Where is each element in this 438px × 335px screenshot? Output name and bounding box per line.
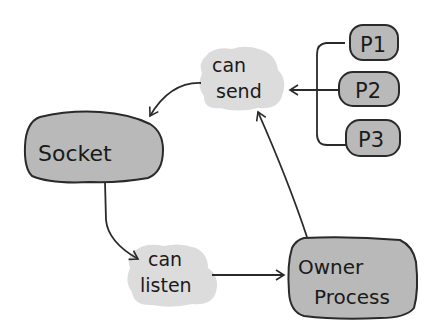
can-listen-line1: can [148,248,182,270]
owner-process-line1: Owner [298,255,364,279]
node-p1: P1 [350,25,398,60]
can-send-line2: send [216,80,262,102]
edge-owner-to-can-send [258,112,307,237]
socket-label: Socket [38,141,112,166]
edge-can-send-to-socket [150,83,201,116]
p2-label: P2 [355,79,381,103]
can-listen-line2: listen [140,274,192,296]
node-can-send: can send [199,47,284,111]
can-send-line1: can [212,54,246,76]
p1-label: P1 [360,33,386,57]
diagram-canvas: can send can listen Socket Owner Process… [0,0,438,335]
owner-process-line2: Process [314,285,390,309]
node-socket: Socket [25,112,163,183]
edge-socket-to-can-listen [105,182,138,259]
node-p3: P3 [346,120,400,156]
node-can-listen: can listen [127,244,217,306]
p3-label: P3 [358,128,384,152]
node-owner-process: Owner Process [288,237,417,318]
node-p2: P2 [339,72,399,106]
